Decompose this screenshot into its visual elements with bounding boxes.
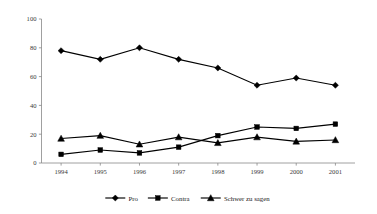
legend-marker-square (156, 196, 161, 201)
series-pro (58, 45, 338, 89)
y-tick-label: 80 (30, 44, 37, 51)
x-tick-label: 1995 (94, 168, 108, 175)
data-point-marker (58, 48, 64, 54)
data-point-marker (59, 152, 64, 157)
data-point-marker (332, 82, 338, 88)
legend-label: Schwer zu sagen (224, 195, 270, 202)
x-tick-label: 2000 (290, 168, 304, 175)
data-point-marker (136, 45, 142, 51)
data-point-marker (254, 82, 260, 88)
x-tick-label: 2001 (329, 168, 342, 175)
y-tick-label: 40 (30, 102, 37, 109)
x-tick-label: 1999 (250, 168, 264, 175)
data-point-marker (293, 75, 299, 81)
data-point-marker (216, 133, 221, 138)
x-tick-label: 1996 (133, 168, 147, 175)
chart-canvas: 020406080100 199419951996199719981999200… (0, 0, 377, 214)
legend-item-schwer-zu-sagen: Schwer zu sagen (201, 195, 270, 202)
legend-marker-diamond (112, 195, 118, 201)
data-point-marker (255, 125, 260, 130)
series-polyline (61, 48, 335, 85)
data-point-marker (175, 134, 182, 140)
legend-label: Contra (171, 195, 190, 202)
data-point-marker (294, 126, 299, 131)
y-axis: 020406080100 (27, 15, 42, 166)
data-point-marker (97, 56, 103, 62)
legend-item-contra: Contra (148, 195, 190, 202)
x-axis: 19941995199619971998199920002001 (42, 163, 356, 175)
chart-legend: ProContraSchwer zu sagen (105, 195, 270, 202)
data-point-marker (176, 56, 182, 62)
x-tick-label: 1997 (172, 168, 186, 175)
data-point-marker (215, 65, 221, 71)
data-point-marker (98, 148, 103, 153)
series-layer (58, 45, 339, 157)
line-chart: 020406080100 199419951996199719981999200… (0, 0, 377, 214)
legend-label: Pro (129, 195, 139, 202)
y-tick-label: 0 (33, 159, 37, 166)
series-schwer-zu-sagen (58, 132, 339, 147)
x-tick-label: 1998 (211, 168, 225, 175)
data-point-marker (137, 151, 142, 156)
data-point-marker (333, 122, 338, 127)
y-tick-label: 100 (27, 15, 38, 22)
data-point-marker (176, 145, 181, 150)
y-tick-label: 60 (30, 73, 37, 80)
legend-item-pro: Pro (105, 195, 138, 202)
x-tick-label: 1994 (55, 168, 69, 175)
y-tick-label: 20 (30, 131, 37, 138)
